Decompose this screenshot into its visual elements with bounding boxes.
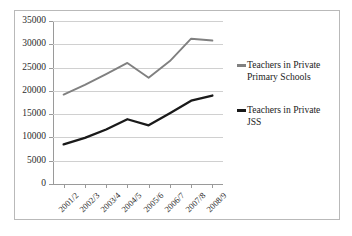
x-axis-tick-label: 2007/8 [184,191,207,214]
x-axis-tick [212,184,213,188]
x-axis-tick [106,184,107,188]
y-axis-tick-label: 15000 [22,109,46,119]
y-axis-tick-label: 5000 [27,156,46,166]
x-axis-tick [191,184,192,188]
y-axis-tick-label: 20000 [22,86,46,96]
x-axis-tick-label: 2003/4 [99,191,122,214]
x-axis-tick-label: 2005/6 [142,191,165,214]
series-lines [53,21,223,184]
y-axis-tick-label: 0 [41,179,46,189]
series-line [64,96,213,145]
x-axis-tick-label: 2006/7 [163,191,186,214]
legend-label-primary: Teachers in Private Primary Schools [247,59,320,82]
x-axis-tick [64,184,65,188]
y-axis-tick [49,184,53,185]
x-axis-tick-label: 2001/2 [57,191,80,214]
legend-swatch-primary-icon [237,64,246,67]
series-line [64,39,213,95]
legend-label-jss: Teachers in Private JSS [247,104,320,127]
plot-area: 05000100001500020000250003000035000 2001… [53,21,223,184]
x-axis-tick [170,184,171,188]
x-axis-tick-label: 2004/5 [120,191,143,214]
x-axis-tick [149,184,150,188]
x-axis-tick [85,184,86,188]
y-axis-tick-label: 25000 [22,63,46,73]
x-axis-tick [127,184,128,188]
x-axis-tick-label: 2008/9 [205,191,228,214]
chart-frame: 05000100001500020000250003000035000 2001… [14,10,340,220]
chart-legend: Teachers in Private Primary Schools Teac… [237,59,337,149]
legend-item-primary: Teachers in Private Primary Schools [237,59,337,82]
legend-swatch-jss-icon [237,109,246,112]
gridline [53,184,223,185]
y-axis-tick-label: 35000 [22,16,46,26]
y-axis-tick-label: 30000 [22,40,46,50]
y-axis-tick-label: 10000 [22,133,46,143]
legend-item-jss: Teachers in Private JSS [237,104,337,127]
x-axis-tick-label: 2002/3 [78,191,101,214]
